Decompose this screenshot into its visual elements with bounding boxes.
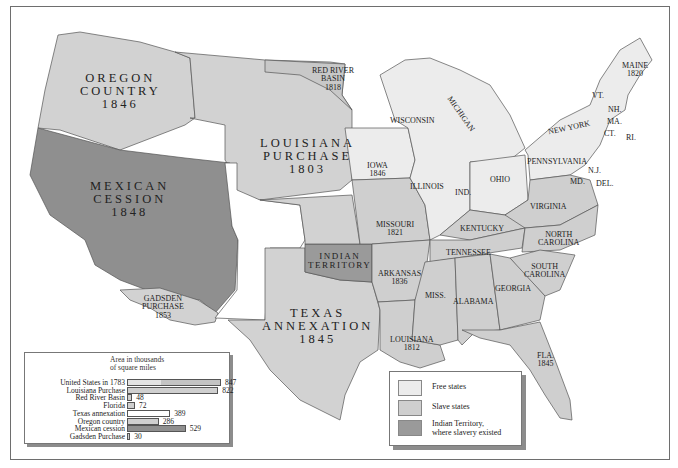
label-florida: FLA.1845 xyxy=(537,352,554,369)
chart-value-label: 389 xyxy=(174,410,185,418)
label-nh: NH. xyxy=(608,106,622,114)
map-legend: Free states Slave states Indian Territor… xyxy=(389,371,522,446)
label-alabama: ALABAMA xyxy=(453,298,493,306)
label-louisiana-purchase: LOUISIANAPURCHASE1803 xyxy=(260,137,355,176)
label-miss: MISS. xyxy=(425,292,446,300)
label-arkansas: ARKANSAS1836 xyxy=(378,270,421,287)
chart-bar xyxy=(127,410,170,417)
label-wisconsin: WISCONSIN xyxy=(390,117,434,125)
label-md: MD. xyxy=(570,178,585,186)
label-gadsden-purchase: GADSDENPURCHASE1853 xyxy=(142,295,184,320)
label-pennsylvania: PENNSYLVANIA xyxy=(527,158,587,166)
label-del: DEL. xyxy=(596,180,614,188)
chart-title: Area in thousandsof square miles xyxy=(110,356,164,373)
chart-bar xyxy=(127,418,159,425)
chart-value-label: 529 xyxy=(190,425,201,433)
label-kentucky: KENTUCKY xyxy=(460,225,504,233)
label-tennessee: TENNESSEE xyxy=(446,249,491,257)
label-ind: IND. xyxy=(455,189,471,197)
chart-value-label: 30 xyxy=(134,433,142,441)
label-virginia: VIRGINIA xyxy=(530,203,566,211)
label-maine: MAINE1820 xyxy=(622,62,648,79)
label-ri: RI. xyxy=(626,134,636,142)
chart-category-label: Gadsden Purchase xyxy=(25,433,125,441)
label-louisiana-state: LOUISIANA1812 xyxy=(390,336,434,353)
chart-row: Gadsden Purchase30 xyxy=(25,433,125,441)
label-nj: N.J. xyxy=(588,167,601,175)
chart-bar xyxy=(127,394,132,401)
label-vt: VT. xyxy=(592,92,604,100)
label-georgia: GEORGIA xyxy=(495,285,531,293)
label-texas-annexation: TEXASANNEXATION1845 xyxy=(262,307,373,346)
label-south-carolina: SOUTHCAROLINA xyxy=(524,263,565,280)
label-oregon-country: OREGONCOUNTRY1846 xyxy=(80,72,161,111)
label-iowa: IOWA1846 xyxy=(367,162,388,179)
chart-bar xyxy=(127,379,221,386)
swatch-slave xyxy=(398,400,422,416)
swatch-free xyxy=(398,380,422,396)
label-ohio: OHIO xyxy=(490,176,510,184)
label-mexican-cession: MEXICANCESSION1848 xyxy=(90,180,169,219)
chart-bar xyxy=(127,433,130,440)
chart-bar xyxy=(127,402,135,409)
label-ct: CT. xyxy=(604,130,616,138)
chart-value-label: 822 xyxy=(222,387,233,395)
label-missouri: MISSOURI1821 xyxy=(376,221,414,238)
label-indian-territory: INDIANTERRITORY xyxy=(308,252,371,271)
label-illinois: ILLINOIS xyxy=(410,183,444,191)
label-north-carolina: NORTHCAROLINA xyxy=(538,231,579,248)
region-mexican-cession xyxy=(30,128,238,313)
label-red-river-basin: RED RIVERBASIN1818 xyxy=(312,67,354,92)
swatch-indian xyxy=(398,420,422,436)
area-bar-chart: Area in thousandsof square miles United … xyxy=(24,352,230,444)
label-ma: MA. xyxy=(607,118,622,126)
